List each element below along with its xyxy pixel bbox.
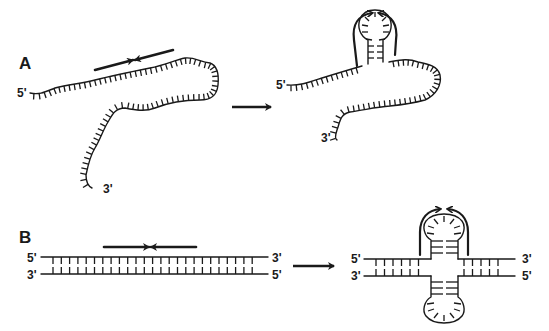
panel-a-hairpin-base-ticks: [291, 60, 440, 140]
panel-a-label: A: [19, 54, 31, 73]
panel-a-after-5prime: 5': [276, 78, 286, 92]
panel-b-label: B: [19, 228, 31, 247]
duplex-base-pairs: [53, 257, 252, 274]
inverted-repeat-diagram: A 5' 3' 5': [0, 0, 549, 331]
cruciform-lower-arm: [424, 276, 464, 323]
panel-b-before-bottom-right: 5': [272, 268, 282, 282]
panel-b-before-bottom-left: 3': [27, 268, 37, 282]
panel-b: B 5' 3' 3' 5': [19, 228, 282, 282]
panel-a-before-5prime: 5': [17, 86, 27, 100]
panel-a-hairpin: 5' 3': [276, 10, 440, 145]
panel-a-before-3prime: 3': [103, 182, 113, 196]
hairpin-stem-loop: [354, 10, 397, 66]
panel-a-base-ticks: [34, 58, 219, 188]
panel-b-after-bottom-left: 3': [351, 269, 361, 283]
panel-b-before-top-left: 5': [27, 251, 37, 265]
panel-a-ssdna-strand: [30, 58, 218, 188]
panel-a-after-3prime: 3': [321, 131, 331, 145]
panel-b-cruciform: 5' 3' 3' 5': [351, 209, 532, 323]
cruciform-upper-arm: [420, 209, 468, 259]
cruciform-base-pairs: [376, 259, 498, 276]
panel-b-after-bottom-right: 5': [522, 269, 532, 283]
panel-b-before-top-right: 3': [272, 251, 282, 265]
panel-b-after-top-right: 3': [522, 252, 532, 266]
panel-b-after-top-left: 5': [351, 252, 361, 266]
panel-a: A 5' 3': [17, 50, 218, 196]
